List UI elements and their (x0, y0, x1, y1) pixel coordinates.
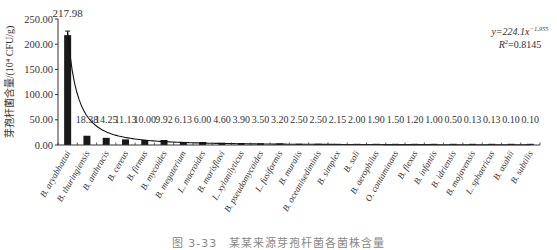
value-label: 0.13 (483, 114, 501, 125)
figure-caption: 图 3-33 某某来源芽孢杆菌各菌株含量 (0, 234, 557, 250)
y-tick-label: 150.00 (24, 64, 53, 75)
x-tick-label: B. soli (341, 149, 361, 174)
value-label: 2.50 (310, 114, 328, 125)
value-label: 1.20 (406, 114, 424, 125)
svg-text:y=224.1x−1.955: y=224.1x−1.955 (490, 25, 549, 37)
value-label: 2.15 (329, 114, 347, 125)
value-label: 6.00 (194, 114, 212, 125)
value-label: 1.50 (387, 114, 405, 125)
y-tick-label: 200.00 (24, 39, 53, 50)
value-label: 3.50 (252, 114, 270, 125)
y-tick-label: 0.00 (35, 140, 53, 151)
bars (64, 31, 534, 145)
value-label: 0.13 (464, 114, 482, 125)
y-axis: 0.0050.00100.00150.00200.00250.00 (24, 14, 58, 151)
y-tick-label: 100.00 (24, 89, 53, 100)
value-label: 4.60 (213, 114, 231, 125)
bar (122, 139, 129, 145)
value-label: 0.10 (522, 114, 540, 125)
value-label: 1.00 (425, 114, 443, 125)
value-label: 0.50 (444, 114, 462, 125)
trendline (68, 32, 531, 145)
x-axis-labels: B. aryabhattaiB. thuringiensisB. anthrac… (38, 149, 536, 214)
value-label: 2.50 (290, 114, 308, 125)
y-tick-label: 250.00 (24, 14, 53, 25)
value-label: 10.00 (134, 114, 157, 125)
value-label: 0.10 (502, 114, 520, 125)
value-label: 3.20 (271, 114, 289, 125)
trendline-equation: y=224.1x−1.955 R2=0.8145 (490, 25, 549, 50)
value-label: 9.92 (155, 114, 173, 125)
value-label: 217.98 (53, 7, 84, 19)
y-axis-title: 芽孢杆菌含量/(10⁴ CFU/g) (3, 26, 16, 139)
value-label: 1.90 (367, 114, 385, 125)
bar (83, 136, 90, 145)
bar (103, 138, 110, 145)
value-label: 2.00 (348, 114, 366, 125)
value-label: 3.90 (232, 114, 250, 125)
bar (161, 140, 168, 145)
value-label: 6.13 (175, 114, 193, 125)
svg-text:R2=0.8145: R2=0.8145 (498, 38, 542, 50)
y-tick-label: 50.00 (29, 114, 53, 125)
value-labels: 217.9818.3814.2511.1310.009.926.136.004.… (53, 7, 540, 125)
